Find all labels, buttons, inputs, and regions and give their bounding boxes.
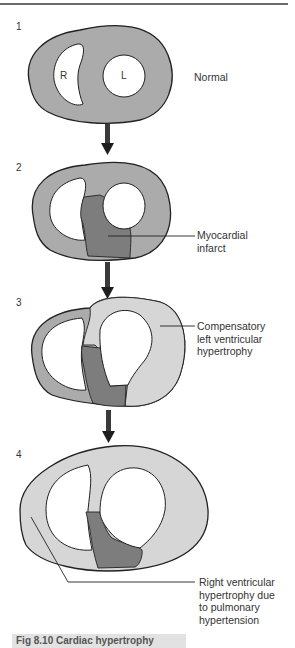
stage-2-heart [32,162,195,260]
label-normal: Normal [194,71,228,84]
label-line: Compensatory [197,320,265,333]
right-ventricle-label: R [60,70,67,81]
left-ventricle-label: L [121,70,127,81]
label-line: left ventricular [197,333,265,346]
stage-number-2: 2 [16,162,22,173]
label-line: Myocardial [197,229,248,242]
arrow-down-icon [102,410,115,443]
label-rvh-pulmonary-hypertension: Right ventricular hypertrophy due to pul… [199,576,275,626]
label-line: infarct [197,242,248,255]
label-line: hypertrophy [197,345,265,358]
label-line: hypertrophy due [199,589,275,602]
arrow-down-icon [101,262,114,299]
stage-3-heart [32,297,195,406]
arrow-down-icon [101,124,114,155]
stage-number-3: 3 [16,297,22,308]
stage-1-heart [28,26,172,124]
figure-caption: Fig 8.10 Cardiac hypertrophy [12,634,186,648]
label-myocardial-infarct: Myocardial infarct [197,229,248,254]
label-line: Right ventricular [199,576,275,589]
stage-number-1: 1 [16,21,22,32]
label-compensatory-lvh: Compensatory left ventricular hypertroph… [197,320,265,358]
stage-number-4: 4 [16,449,22,460]
label-line: hypertension [199,614,275,627]
label-line: to pulmonary [199,601,275,614]
stage-4-heart [20,446,208,582]
left-ventricle-cavity [103,183,145,229]
